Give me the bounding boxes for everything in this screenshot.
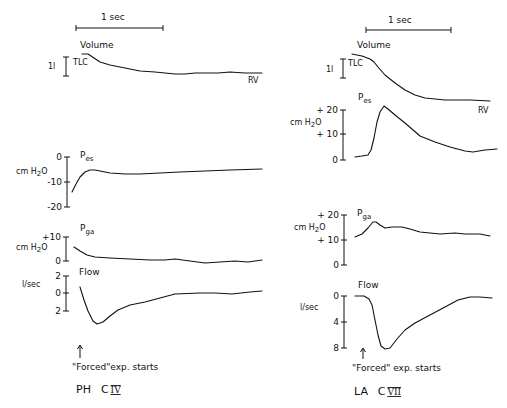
right-volume-scale-label: 1l <box>326 65 333 74</box>
right-pga-trace <box>355 222 490 237</box>
right-pga-unit: cm H2O <box>294 223 326 234</box>
right-flow-tick-2: 8 <box>333 343 339 353</box>
right-pes-axis <box>340 110 346 160</box>
left-flow-tick-2: 2 <box>55 306 61 316</box>
left-time-scale-label: 1 sec <box>101 12 125 22</box>
right-flow-tick-1: 4 <box>333 317 339 327</box>
right-pes-tick-1: + 10 <box>316 129 338 139</box>
left-forced-annotation: "Forced"exp. starts <box>72 362 158 372</box>
right-flow-axis <box>341 296 347 348</box>
right-rv-label: RV <box>478 106 489 115</box>
left-pga-tick-1: 0 <box>55 256 61 266</box>
right-pes-unit: cm H2O <box>290 118 322 129</box>
left-subject-label: PHCIV <box>76 383 121 396</box>
right-forced-annotation: "Forced" exp. starts <box>352 363 441 373</box>
right-pes-tick-0: + 20 <box>316 105 338 115</box>
right-pga-tick-1: + 10 <box>317 235 339 245</box>
left-pga-axis <box>63 237 69 261</box>
right-volume-title: Volume <box>357 40 391 50</box>
right-pga-title: Pga <box>357 208 371 221</box>
right-pga-axis <box>341 215 347 265</box>
left-volume-scale-label: 1l <box>48 62 55 71</box>
left-flow-tick-1: 0 <box>55 288 61 298</box>
right-panel: 1 sec Volume 1l TLC RV Pes cm H2O + 20 +… <box>290 15 497 398</box>
left-panel: 1 sec Volume 1l TLC RV Pes cm H2O 0 -10 … <box>16 12 262 396</box>
left-pes-unit: cm H2O <box>16 167 48 178</box>
left-rv-label: RV <box>248 76 259 85</box>
left-pes-trace <box>72 169 262 192</box>
left-pes-tick-0: 0 <box>56 152 62 162</box>
right-flow-title: Flow <box>358 280 379 290</box>
left-volume-scale-bracket <box>63 57 69 76</box>
right-time-scale-bar <box>366 27 451 33</box>
left-volume-trace <box>82 54 262 74</box>
right-flow-unit: l/sec <box>300 303 318 312</box>
left-flow-tick-0: 2 <box>55 271 61 281</box>
left-pes-title: Pes <box>80 150 94 163</box>
right-flow-tick-0: 0 <box>333 291 339 301</box>
left-flow-axis <box>63 276 69 311</box>
left-flow-title: Flow <box>79 267 100 277</box>
left-pga-trace <box>74 247 262 263</box>
right-flow-trace <box>355 296 492 349</box>
right-volume-trace <box>352 54 490 101</box>
left-volume-title: Volume <box>80 40 114 50</box>
right-pes-title: Pes <box>358 92 372 105</box>
right-pga-tick-2: 0 <box>333 260 339 270</box>
right-time-scale-label: 1 sec <box>388 15 412 25</box>
right-pes-trace <box>355 106 497 157</box>
right-arrow-icon <box>361 348 366 359</box>
left-pga-tick-0: +10 <box>42 232 61 242</box>
left-arrow-icon <box>78 345 83 358</box>
right-pes-tick-2: 0 <box>332 155 338 165</box>
left-time-scale-bar <box>76 25 163 31</box>
left-flow-trace <box>80 287 262 324</box>
figure-canvas: 1 sec Volume 1l TLC RV Pes cm H2O 0 -10 … <box>0 0 507 408</box>
right-subject-label: LACVII <box>354 385 401 398</box>
left-tlc-label: TLC <box>72 58 88 67</box>
left-flow-unit: l/sec <box>22 280 40 289</box>
left-pga-unit: cm H2O <box>16 243 48 254</box>
left-pes-axis <box>64 157 70 207</box>
right-pga-tick-0: + 20 <box>317 210 339 220</box>
left-pes-tick-2: -20 <box>47 202 62 212</box>
left-pes-tick-1: -10 <box>47 177 62 187</box>
left-pga-title: Pga <box>80 223 94 236</box>
right-tlc-label: TLC <box>347 59 363 68</box>
right-volume-scale-bracket <box>340 59 346 78</box>
